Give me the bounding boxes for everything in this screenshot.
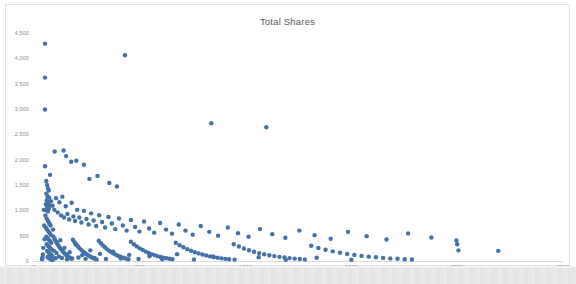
scatter-point bbox=[160, 257, 164, 261]
scatter-point bbox=[104, 257, 108, 261]
scatter-point bbox=[315, 256, 319, 260]
chart-panel: Total Shares 05001,0001,5002,0002,5003,0… bbox=[5, 4, 570, 266]
scatter-point bbox=[70, 256, 74, 260]
scatter-point bbox=[183, 228, 187, 232]
scatter-point bbox=[367, 254, 371, 258]
scatter-point bbox=[43, 41, 47, 45]
scatter-point bbox=[40, 257, 44, 261]
scatter-point bbox=[170, 231, 174, 235]
scatter-point bbox=[123, 53, 127, 57]
scatter-point bbox=[359, 254, 363, 258]
scatter-point bbox=[79, 220, 83, 224]
scatter-point bbox=[65, 212, 69, 216]
scatter-point bbox=[211, 254, 215, 258]
y-axis-tick-2000: 2,000 bbox=[7, 157, 29, 163]
scatter-point bbox=[41, 246, 45, 250]
scatter-point bbox=[388, 256, 392, 260]
scatter-point bbox=[106, 215, 110, 219]
scatter-point bbox=[272, 254, 276, 258]
scatter-point bbox=[62, 246, 66, 250]
scatter-point bbox=[51, 227, 55, 231]
scatter-point bbox=[267, 253, 271, 257]
scatter-point bbox=[80, 253, 84, 257]
scatter-point bbox=[77, 215, 81, 219]
scatter-point bbox=[48, 223, 52, 227]
chart-title: Total Shares bbox=[6, 16, 569, 27]
scatter-point bbox=[56, 210, 60, 214]
scatter-point bbox=[346, 230, 350, 234]
scatter-point bbox=[177, 243, 181, 247]
scatter-point bbox=[331, 249, 335, 253]
x-axis-line bbox=[34, 261, 563, 262]
scatter-point bbox=[124, 228, 128, 232]
scatter-point bbox=[67, 250, 71, 254]
scatter-point bbox=[209, 121, 213, 125]
scatter-point bbox=[69, 201, 73, 205]
scatter-point bbox=[115, 184, 119, 188]
scatter-point bbox=[73, 242, 77, 246]
scatter-point bbox=[82, 209, 86, 213]
scatter-point bbox=[76, 255, 80, 259]
y-axis-tick-1000: 1,000 bbox=[7, 207, 29, 213]
scatter-point bbox=[88, 248, 92, 252]
scatter-point bbox=[133, 225, 137, 229]
scatter-point bbox=[43, 164, 47, 168]
scatter-point bbox=[74, 158, 78, 162]
scatter-point bbox=[54, 251, 58, 255]
scatter-point bbox=[94, 224, 98, 228]
scatter-point bbox=[92, 256, 96, 260]
scatter-point bbox=[381, 256, 385, 260]
scatter-point bbox=[42, 223, 46, 227]
scatter-point bbox=[193, 250, 197, 254]
scatter-point bbox=[44, 179, 48, 183]
scatter-point bbox=[67, 217, 71, 221]
scatter-point bbox=[127, 253, 131, 257]
scatter-point bbox=[83, 257, 87, 261]
scatter-point bbox=[46, 209, 50, 213]
scatter-point bbox=[292, 256, 296, 260]
scatter-point bbox=[216, 233, 220, 237]
page-bottom-band bbox=[0, 268, 576, 284]
scatter-point bbox=[48, 173, 52, 177]
scatter-point bbox=[237, 244, 241, 248]
scatter-point bbox=[95, 174, 99, 178]
plot-area bbox=[34, 33, 563, 261]
scatter-point bbox=[53, 149, 57, 153]
scatter-point bbox=[303, 257, 307, 261]
scatter-point bbox=[60, 194, 64, 198]
scatter-point bbox=[283, 235, 287, 239]
scatter-point bbox=[185, 247, 189, 251]
scatter-points bbox=[40, 41, 501, 262]
scatter-point bbox=[84, 217, 88, 221]
scatter-point bbox=[270, 232, 274, 236]
scatter-point bbox=[111, 249, 115, 253]
scatter-point bbox=[298, 257, 302, 261]
scatter-point bbox=[69, 159, 73, 163]
scatter-point bbox=[97, 213, 101, 217]
scatter-point bbox=[309, 244, 313, 248]
scatter-point bbox=[410, 257, 414, 261]
scatter-point bbox=[215, 256, 219, 260]
scatter-point bbox=[49, 241, 53, 245]
scatter-point bbox=[175, 252, 179, 256]
scatter-point bbox=[200, 252, 204, 256]
scatter-point bbox=[219, 256, 223, 260]
scatter-point bbox=[147, 254, 151, 258]
scatter-point bbox=[204, 253, 208, 257]
scatter-point bbox=[54, 196, 58, 200]
scatter-point bbox=[277, 255, 281, 259]
scatter-point bbox=[207, 230, 211, 234]
scatter-point bbox=[164, 227, 168, 231]
scatter-point bbox=[223, 257, 227, 261]
scatter-point bbox=[137, 229, 141, 233]
scatter-point bbox=[364, 234, 368, 238]
y-axis-tick-3000: 3,000 bbox=[7, 106, 29, 112]
scatter-point bbox=[107, 181, 111, 185]
scatter-point bbox=[384, 237, 388, 241]
scatter-point bbox=[126, 257, 130, 261]
scatter-point bbox=[65, 257, 69, 261]
scatter-point bbox=[454, 238, 458, 242]
scatter-point bbox=[232, 257, 236, 261]
scatter-point bbox=[406, 231, 410, 235]
scatter-point bbox=[119, 256, 123, 260]
